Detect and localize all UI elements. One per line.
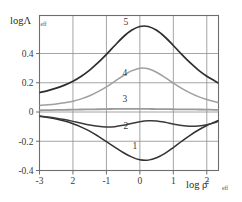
curve-label-3: 3 <box>122 94 127 104</box>
x-tick-label: -1 <box>102 176 110 186</box>
chart-background <box>0 0 242 202</box>
chart-figure: -32-1012 0.40.20-0.2-0.4 12345 logΛ eff … <box>0 0 242 202</box>
y-tick-label: 0 <box>29 107 34 117</box>
x-tick-label: 2 <box>71 176 76 186</box>
curve-label-4: 4 <box>122 68 127 78</box>
curve-label-2: 2 <box>123 121 128 131</box>
y-tick-label: 0.4 <box>22 49 34 59</box>
y-axis-label-subscript: eff <box>41 21 47 27</box>
x-tick-label: 1 <box>171 176 176 186</box>
y-axis-label: logΛ <box>10 15 31 26</box>
x-axis-label-subscript: eff <box>222 185 228 191</box>
y-tick-label: -0.4 <box>18 166 33 176</box>
y-tick-label: 0.2 <box>22 78 34 88</box>
x-tick-label: 0 <box>137 176 142 186</box>
x-axis-label: log ρ̄ <box>186 179 209 190</box>
curve-label-5: 5 <box>123 17 128 27</box>
curve-label-1: 1 <box>132 141 137 151</box>
x-tick-label: -3 <box>36 176 44 186</box>
y-tick-label: -0.2 <box>18 137 33 147</box>
chart-svg: -32-1012 0.40.20-0.2-0.4 12345 logΛ eff … <box>0 0 242 202</box>
